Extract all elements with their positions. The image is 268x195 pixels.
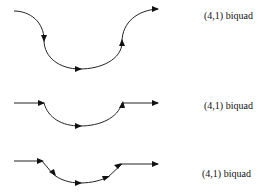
diagram-1-arrow-right-end — [152, 6, 159, 12]
diagram-1-arrow-right-bottom — [75, 66, 82, 72]
diagram-2-arrow-right-bottom — [75, 123, 82, 129]
diagram-2-half-arc — [14, 100, 159, 129]
diagram-2-arrow-right-start — [38, 100, 45, 106]
diagram-3-curve — [14, 161, 158, 183]
diagram-3-segmented-arc — [14, 158, 159, 186]
diagram-3-arrow-1 — [37, 158, 44, 164]
diagram-1-arrow-up — [119, 39, 125, 46]
diagram-3-arrow-end — [152, 161, 159, 167]
diagram-1-curve — [14, 9, 158, 69]
diagram-1-arrow-down — [41, 35, 47, 42]
diagram-3-arrow-4 — [102, 176, 110, 181]
diagram-3-arrow-5 — [114, 163, 122, 169]
diagram-1-full-arc — [14, 6, 159, 72]
biquad-diagrams — [0, 0, 268, 195]
diagram-2-label: (4,1) biquad — [204, 100, 253, 111]
diagram-3-arrow-3 — [75, 180, 82, 186]
diagram-2-arrow-up — [119, 101, 125, 108]
diagram-2-arrow-right-end — [152, 100, 159, 106]
diagram-3-label: (4,1) biquad — [202, 168, 251, 179]
diagram-2-curve — [14, 103, 158, 126]
diagram-1-label: (4,1) biquad — [204, 10, 253, 21]
